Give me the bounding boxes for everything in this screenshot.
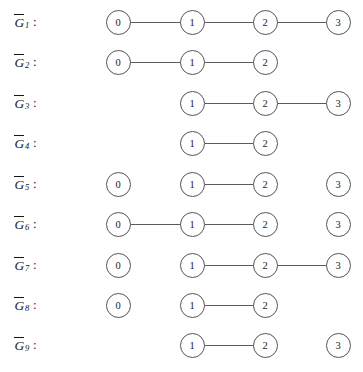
graph-label-complement-symbol: G xyxy=(14,95,25,112)
graph-edge xyxy=(130,22,181,23)
graph-node: 1 xyxy=(180,293,205,318)
graph-label-letter: G xyxy=(14,55,25,71)
graph-node: 0 xyxy=(106,10,131,35)
graph-edge xyxy=(204,143,254,144)
graph-row-2: G2:012 xyxy=(0,42,363,82)
graph-node: 3 xyxy=(326,212,351,237)
graph-node: 2 xyxy=(253,50,278,75)
graph-edge xyxy=(204,62,254,63)
graph-label-complement-symbol: G xyxy=(14,54,25,71)
graph-edge xyxy=(130,62,181,63)
graph-edge xyxy=(130,224,181,225)
graph-edge xyxy=(204,224,254,225)
graph-row-6: G6:0123 xyxy=(0,204,363,244)
graph-row-9: G9:123 xyxy=(0,325,363,365)
graph-row-1: G1:0123 xyxy=(0,2,363,42)
graph-label-subscript: 9 xyxy=(25,343,29,353)
graph-label-colon: : xyxy=(33,135,37,151)
graph-node: 2 xyxy=(253,293,278,318)
graph-label-letter: G xyxy=(14,298,25,314)
graph-label-subscript: 5 xyxy=(25,182,29,192)
graph-node: 1 xyxy=(180,333,205,358)
graph-label-colon: : xyxy=(33,95,37,111)
graph-node: 2 xyxy=(253,212,278,237)
graph-label-2: G2: xyxy=(14,42,37,82)
graph-label-colon: : xyxy=(33,54,37,70)
graph-edge xyxy=(204,184,254,185)
graph-node: 1 xyxy=(180,172,205,197)
graph-label-subscript: 1 xyxy=(25,20,29,30)
graph-label-5: G5: xyxy=(14,164,37,204)
overline-bar-icon xyxy=(14,54,25,55)
graph-row-5: G5:0123 xyxy=(0,164,363,204)
graph-label-colon: : xyxy=(33,257,37,273)
graph-edge xyxy=(204,103,254,104)
graph-node: 1 xyxy=(180,253,205,278)
graph-node: 1 xyxy=(180,10,205,35)
graph-row-8: G8:012 xyxy=(0,285,363,325)
graph-edge xyxy=(204,305,254,306)
graph-label-subscript: 4 xyxy=(25,141,29,151)
graph-node: 1 xyxy=(180,212,205,237)
graph-label-letter: G xyxy=(14,258,25,274)
graph-label-complement-symbol: G xyxy=(14,297,25,314)
graph-label-complement-symbol: G xyxy=(14,337,25,354)
graph-edge xyxy=(204,22,254,23)
graph-node: 3 xyxy=(326,91,351,116)
graph-edge xyxy=(277,103,327,104)
graph-node: 0 xyxy=(106,212,131,237)
graph-edge xyxy=(277,22,327,23)
graph-label-3: G3: xyxy=(14,83,37,123)
graph-node: 2 xyxy=(253,253,278,278)
graph-node: 2 xyxy=(253,131,278,156)
graph-row-3: G3:123 xyxy=(0,83,363,123)
graph-label-complement-symbol: G xyxy=(14,14,25,31)
graph-label-9: G9: xyxy=(14,325,37,365)
graph-node: 3 xyxy=(326,10,351,35)
graph-node: 1 xyxy=(180,91,205,116)
graph-label-letter: G xyxy=(14,177,25,193)
overline-bar-icon xyxy=(14,135,25,136)
graph-label-colon: : xyxy=(33,176,37,192)
graph-node: 3 xyxy=(326,333,351,358)
graph-label-7: G7: xyxy=(14,245,37,285)
graph-node: 0 xyxy=(106,293,131,318)
graph-row-4: G4:12 xyxy=(0,123,363,163)
graph-label-letter: G xyxy=(14,15,25,31)
graph-figure: G1:0123G2:012G3:123G4:12G5:0123G6:0123G7… xyxy=(0,0,363,372)
graph-label-subscript: 7 xyxy=(25,263,29,273)
overline-bar-icon xyxy=(14,297,25,298)
graph-label-4: G4: xyxy=(14,123,37,163)
graph-label-letter: G xyxy=(14,136,25,152)
overline-bar-icon xyxy=(14,95,25,96)
graph-node: 2 xyxy=(253,91,278,116)
graph-edge xyxy=(277,265,327,266)
graph-edge xyxy=(204,265,254,266)
graph-node: 2 xyxy=(253,333,278,358)
graph-label-subscript: 8 xyxy=(25,303,29,313)
graph-node: 1 xyxy=(180,50,205,75)
graph-node: 3 xyxy=(326,253,351,278)
overline-bar-icon xyxy=(14,337,25,338)
graph-label-letter: G xyxy=(14,217,25,233)
graph-edge xyxy=(204,345,254,346)
graph-label-colon: : xyxy=(33,14,37,30)
graph-node: 0 xyxy=(106,172,131,197)
graph-row-7: G7:0123 xyxy=(0,245,363,285)
graph-label-complement-symbol: G xyxy=(14,176,25,193)
overline-bar-icon xyxy=(14,257,25,258)
graph-label-subscript: 2 xyxy=(25,60,29,70)
graph-node: 2 xyxy=(253,172,278,197)
graph-label-complement-symbol: G xyxy=(14,257,25,274)
graph-label-6: G6: xyxy=(14,204,37,244)
graph-label-1: G1: xyxy=(14,2,37,42)
graph-label-complement-symbol: G xyxy=(14,216,25,233)
graph-node: 0 xyxy=(106,253,131,278)
graph-label-complement-symbol: G xyxy=(14,135,25,152)
graph-node: 1 xyxy=(180,131,205,156)
graph-label-subscript: 3 xyxy=(25,101,29,111)
graph-label-colon: : xyxy=(33,337,37,353)
graph-label-letter: G xyxy=(14,96,25,112)
graph-node: 3 xyxy=(326,172,351,197)
overline-bar-icon xyxy=(14,14,25,15)
